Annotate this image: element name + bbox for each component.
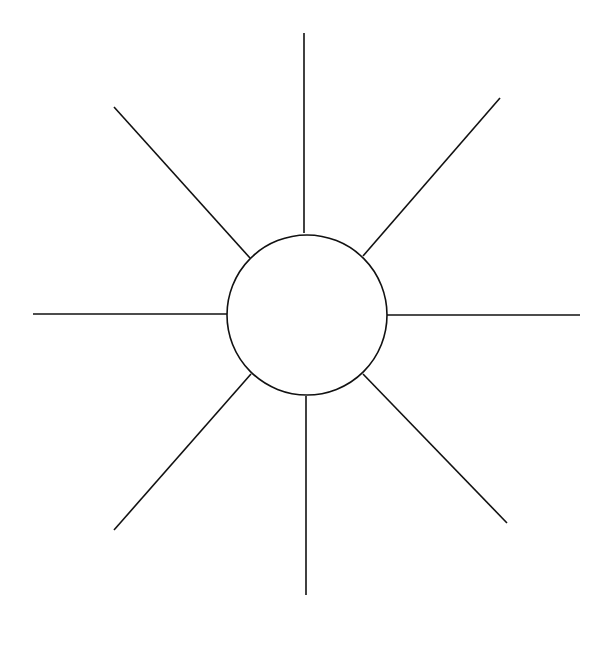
ray-north-west: [114, 107, 250, 258]
starburst-diagram: [0, 0, 609, 650]
diagram-canvas: [0, 0, 609, 650]
ray-south-east: [363, 374, 507, 523]
ray-south-west: [114, 374, 251, 530]
central-hub-circle: [227, 235, 387, 395]
ray-north-east: [363, 98, 500, 256]
